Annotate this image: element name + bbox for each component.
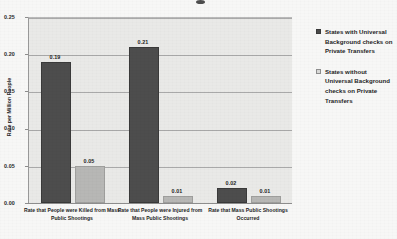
bar-value-label: 0.21 <box>128 39 158 45</box>
y-tick-label: 0.10 <box>4 125 15 131</box>
legend-entry[interactable]: States with Universal Background checks … <box>316 27 394 56</box>
bar <box>217 188 247 203</box>
bar-value-label: 0.01 <box>250 188 280 194</box>
chart-legend: States with Universal Background checks … <box>316 27 394 116</box>
y-tick-label: 0.00 <box>4 200 15 206</box>
y-tick-label: 0.25 <box>4 14 15 20</box>
bar <box>163 196 193 203</box>
x-category-label: Rate that People were Killed from Mass P… <box>24 207 120 222</box>
legend-swatch-icon <box>316 29 321 34</box>
x-category-label: Rate that People were Injured from Mass … <box>112 207 208 222</box>
legend-label: States with Universal Background checks … <box>325 28 392 54</box>
gridline <box>29 18 292 19</box>
bar-value-label: 0.19 <box>40 54 70 60</box>
bar <box>251 196 281 203</box>
legend-swatch-icon <box>316 69 321 74</box>
bar-value-label: 0.01 <box>162 188 192 194</box>
y-axis-title: Rate per Million People <box>6 71 12 143</box>
bar-value-label: 0.02 <box>216 180 246 186</box>
x-axis-baseline <box>28 203 292 204</box>
y-tick-label: 0.15 <box>4 88 15 94</box>
x-category-label: Rate that Mass Public Shootings Occurred <box>200 207 296 222</box>
plot-area <box>28 17 292 203</box>
grouped-bar-chart: Rate per Million People 0.000.050.100.15… <box>0 0 397 239</box>
bar <box>75 166 105 203</box>
legend-entry[interactable]: States without Universal Background chec… <box>316 67 394 105</box>
bar <box>129 47 159 203</box>
legend-label: States without Universal Background chec… <box>325 68 390 104</box>
bar-value-label: 0.05 <box>74 158 104 164</box>
bar <box>41 62 71 203</box>
y-tick-label: 0.20 <box>4 51 15 57</box>
y-tick-label: 0.05 <box>4 163 15 169</box>
